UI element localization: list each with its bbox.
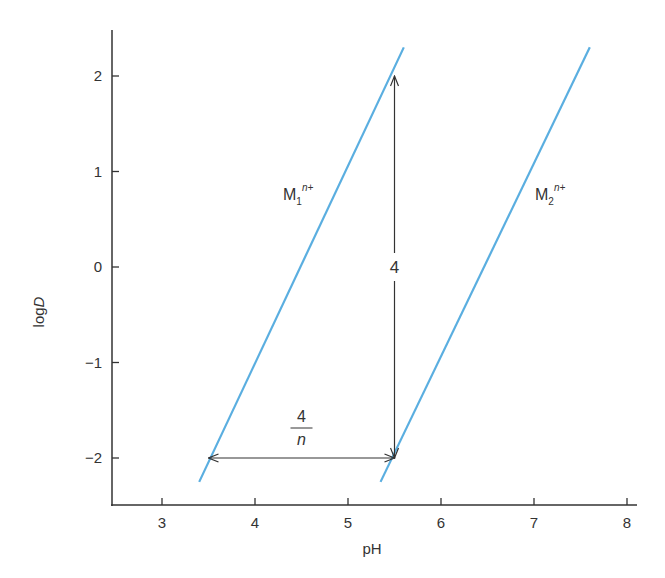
series-label-m2: M2n+ [535, 182, 565, 207]
fraction-numerator: 4 [297, 408, 306, 425]
chart: 345678 210−1−2 4 4 n M1n+M2n+ pH logD [0, 0, 665, 578]
x-tick-label: 6 [437, 514, 445, 531]
x-tick-label: 4 [251, 514, 259, 531]
series-label-m1: M1n+ [283, 182, 313, 207]
series-line-m2 [381, 47, 590, 482]
x-axis-ticks: 345678 [158, 498, 631, 531]
y-tick-label: −2 [85, 449, 102, 466]
y-tick-label: −1 [85, 354, 102, 371]
x-tick-label: 8 [623, 514, 631, 531]
y-axis-ticks: 210−1−2 [85, 67, 119, 466]
fraction-denominator: n [297, 431, 306, 448]
y-tick-label: 2 [94, 67, 102, 84]
vertical-arrow-label: 4 [390, 258, 399, 277]
x-tick-label: 7 [530, 514, 538, 531]
x-axis-title: pH [362, 540, 381, 557]
x-tick-label: 3 [158, 514, 166, 531]
y-tick-label: 0 [94, 258, 102, 275]
x-tick-label: 5 [344, 514, 352, 531]
y-tick-label: 1 [94, 163, 102, 180]
y-axis-title: logD [30, 296, 47, 327]
